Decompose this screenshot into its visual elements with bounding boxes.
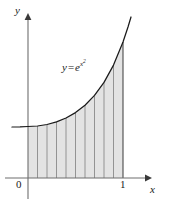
equation-equals-sign: = xyxy=(68,61,74,73)
x-axis-arrow-icon xyxy=(145,175,152,182)
upper-limit-tick-label: 1 xyxy=(120,179,126,190)
equation-exponent-power: 2 xyxy=(83,58,86,64)
equation-exponent: x2 xyxy=(80,60,86,68)
y-axis-arrow-icon xyxy=(25,13,32,20)
y-axis-label: y xyxy=(15,5,20,16)
x-axis-label: x xyxy=(150,184,155,195)
curve-equation-label: y=ex2 xyxy=(62,61,86,73)
plot-canvas xyxy=(0,0,170,211)
equation-lhs: y xyxy=(62,61,67,73)
riemann-sum-figure: y=ex2 y x 0 1 xyxy=(0,0,170,211)
origin-tick-label: 0 xyxy=(16,179,22,190)
